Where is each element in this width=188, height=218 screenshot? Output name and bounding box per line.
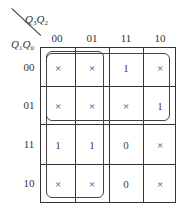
column-header-01: 01 — [75, 32, 109, 44]
row-variable-label: Q1Q0 — [11, 38, 34, 52]
kmap-cell: × — [143, 125, 177, 164]
kmap-cell: × — [143, 164, 177, 203]
kmap-cell: 0 — [109, 164, 143, 203]
row-header-10: 10 — [20, 177, 38, 189]
kmap-grid: × × 1 × × × × 1 1 1 0 × × × 0 × — [40, 47, 176, 203]
row-header-00: 00 — [20, 61, 38, 73]
kmap-cell: 0 — [109, 125, 143, 164]
group-loop-left-two-columns — [46, 51, 104, 198]
column-header-11: 11 — [109, 32, 143, 44]
row-header-01: 01 — [20, 99, 38, 111]
column-variable-label: Q3Q2 — [25, 13, 48, 27]
column-header-10: 10 — [143, 32, 177, 44]
column-header-00: 00 — [40, 32, 74, 44]
row-header-11: 11 — [20, 138, 38, 150]
